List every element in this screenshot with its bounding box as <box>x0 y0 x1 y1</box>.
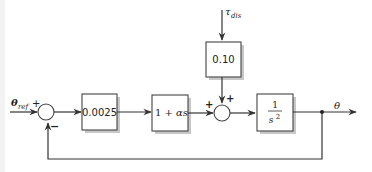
svg-text:dis: dis <box>231 12 242 20</box>
svg-text:2: 2 <box>276 113 280 121</box>
svg-text:1 + αs: 1 + αs <box>155 107 188 118</box>
svg-text:0.0025: 0.0025 <box>82 107 117 118</box>
svg-text:θ: θ <box>11 97 18 108</box>
sum2-left-plus-sign: + <box>205 99 213 110</box>
sum1-minus-sign: − <box>50 120 59 133</box>
disturbance-gain-block: 0.10 <box>206 42 244 80</box>
svg-text:ref: ref <box>18 103 29 111</box>
lead-compensator-block: 1 + αs <box>152 95 191 134</box>
summing-junction-1 <box>38 104 54 120</box>
block-diagram: θ ref + − 0.0025 1 + αs + τ dis 0.10 + <box>0 0 372 172</box>
sum2-top-plus-sign: + <box>226 93 234 104</box>
output-label: θ <box>334 100 340 111</box>
summing-junction-2 <box>214 105 230 121</box>
svg-text:1: 1 <box>272 100 278 110</box>
gain-block: 0.0025 <box>82 94 120 133</box>
svg-text:s: s <box>269 115 274 125</box>
input-label: θ ref <box>11 97 29 111</box>
svg-text:0.10: 0.10 <box>212 54 234 65</box>
plant-block: 1 s 2 <box>257 94 296 134</box>
disturbance-label: τ dis <box>225 6 242 20</box>
